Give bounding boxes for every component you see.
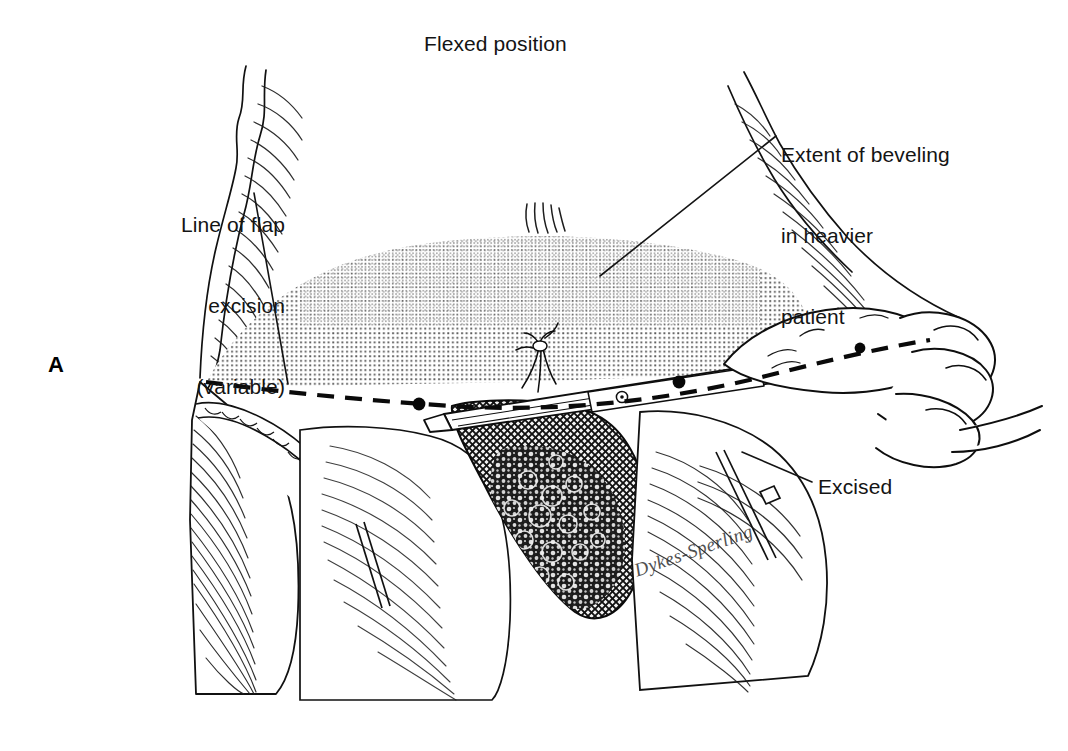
figure-title: Flexed position [424, 30, 567, 57]
panel-letter-a: A [48, 352, 64, 378]
beveling-line-1: Extent of beveling [781, 141, 950, 168]
excision-marker-dot [413, 398, 426, 411]
umbilicus-detail [526, 203, 565, 233]
flap-line-2: excision [85, 292, 285, 319]
label-excised: Excised [818, 473, 892, 500]
beveling-line-3: patient [781, 303, 950, 330]
beveling-line-2: in heavier [781, 222, 950, 249]
flap-line-3: (variable) [85, 373, 285, 400]
excision-marker-dot [673, 376, 686, 389]
flap-line-1: Line of flap [85, 211, 285, 238]
label-extent-of-beveling: Extent of beveling in heavier patient [781, 87, 950, 384]
label-line-of-flap-excision: Line of flap excision (variable) [85, 157, 285, 454]
surgical-figure: A Flexed position Extent of beveling in … [0, 0, 1068, 751]
